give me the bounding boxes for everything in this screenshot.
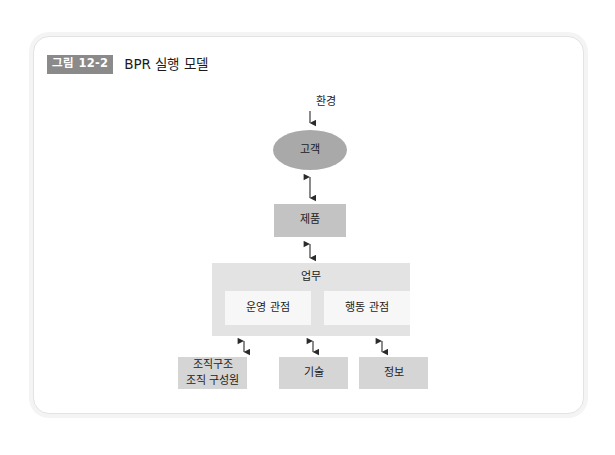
resource-line-2: 조직 구성원	[186, 373, 240, 389]
resource-node-organization: 조직구조 조직 구성원	[178, 357, 247, 389]
customer-node: 고객	[273, 130, 347, 170]
resource-node-technology: 기술	[279, 357, 348, 389]
product-node: 제품	[274, 204, 346, 237]
resource-line-1: 조직구조	[193, 357, 233, 373]
work-node: 업무 운영 관점 행동 관점	[212, 263, 410, 336]
work-node-label: 업무	[212, 270, 410, 285]
bpr-execution-model-diagram: 환경 고객 제품 업무 운영 관점 행동 관점 조직구조 조직 구성원 기술 정…	[34, 37, 583, 413]
work-perspective-behavioral: 행동 관점	[324, 291, 410, 325]
resource-line-1: 기술	[304, 365, 324, 381]
resource-line-1: 정보	[384, 365, 404, 381]
work-perspective-operational: 운영 관점	[225, 291, 311, 325]
environment-label: 환경	[296, 95, 356, 109]
figure-page: 그림 12-2 BPR 실행 모델	[0, 0, 615, 455]
resource-node-information: 정보	[359, 357, 428, 389]
figure-frame: 그림 12-2 BPR 실행 모델	[33, 36, 584, 414]
